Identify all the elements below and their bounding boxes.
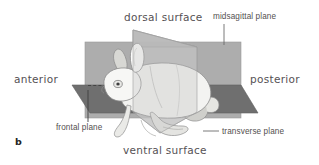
label-ventral-surface: ventral surface [123,144,207,156]
label-frontal-plane: frontal plane [56,123,102,132]
panel-label-b: b [15,136,22,147]
label-posterior: posterior [250,73,300,85]
label-transverse-plane: transverse plane [222,127,284,136]
label-dorsal-surface: dorsal surface [124,11,203,23]
rabbit-eye-pupil [116,82,119,85]
transverse-plane-overlay [133,30,197,133]
label-midsagittal-plane: midsagittal plane [213,12,276,21]
label-anterior: anterior [14,73,58,85]
